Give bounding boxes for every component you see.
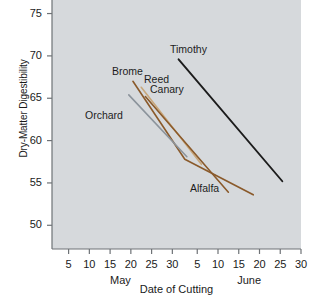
series-line-orchard [129,95,187,157]
series-line-timothy [179,59,283,181]
series-line-brome [133,81,253,194]
series-label-brome: Brome [112,65,143,77]
dry-matter-digestibility-chart: Dry-Matter Digestibility 505560657075 51… [0,0,312,303]
chart-canvas [0,0,312,303]
series-line-alfalfa [145,97,228,193]
series-label-alfalfa: Alfalfa [190,182,219,194]
series-label-timothy: Timothy [170,43,207,55]
series-label-canary: Canary [150,83,184,95]
series-label-orchard: Orchard [85,109,123,121]
axes-group [47,0,301,254]
